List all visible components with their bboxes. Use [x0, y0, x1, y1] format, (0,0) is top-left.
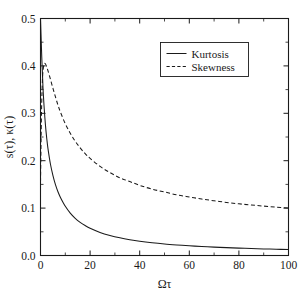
x-tick-label: 100 — [280, 259, 298, 271]
x-tick-label: 40 — [134, 259, 146, 271]
legend-label-kurtosis: Kurtosis — [192, 48, 229, 60]
x-tick-label: 0 — [38, 259, 44, 271]
y-tick-label: 0.1 — [21, 202, 36, 214]
y-tick-label: 0.0 — [21, 250, 36, 262]
x-tick-label: 60 — [184, 259, 196, 271]
line-chart: 020406080100 0.00.10.20.30.40.5 Ωτ s(τ),… — [0, 0, 305, 297]
x-axis-title: Ωτ — [158, 277, 172, 291]
chart-background — [0, 0, 305, 297]
y-tick-label: 0.2 — [21, 155, 36, 167]
figure-container: 020406080100 0.00.10.20.30.40.5 Ωτ s(τ),… — [0, 0, 305, 297]
legend-label-skewness: Skewness — [192, 61, 235, 73]
chart-legend: Kurtosis Skewness — [161, 43, 249, 77]
y-tick-label: 0.5 — [21, 13, 36, 25]
y-tick-label: 0.4 — [21, 60, 36, 72]
x-tick-label: 80 — [233, 259, 245, 271]
x-tick-label: 20 — [84, 259, 96, 271]
y-tick-label: 0.3 — [21, 107, 36, 119]
y-axis-title: s(τ), κ(τ) — [2, 116, 16, 158]
